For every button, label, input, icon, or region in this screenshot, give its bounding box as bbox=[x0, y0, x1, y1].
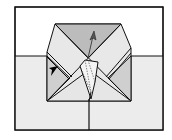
origami-envelope-diagram bbox=[0, 0, 172, 140]
